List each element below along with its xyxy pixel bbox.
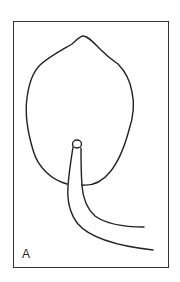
petiole-right-edge <box>81 148 144 227</box>
petiole-tip <box>73 140 82 148</box>
leaf-blade-outline <box>26 36 133 185</box>
leaf-drawing <box>0 0 180 282</box>
panel-label: A <box>22 248 30 260</box>
